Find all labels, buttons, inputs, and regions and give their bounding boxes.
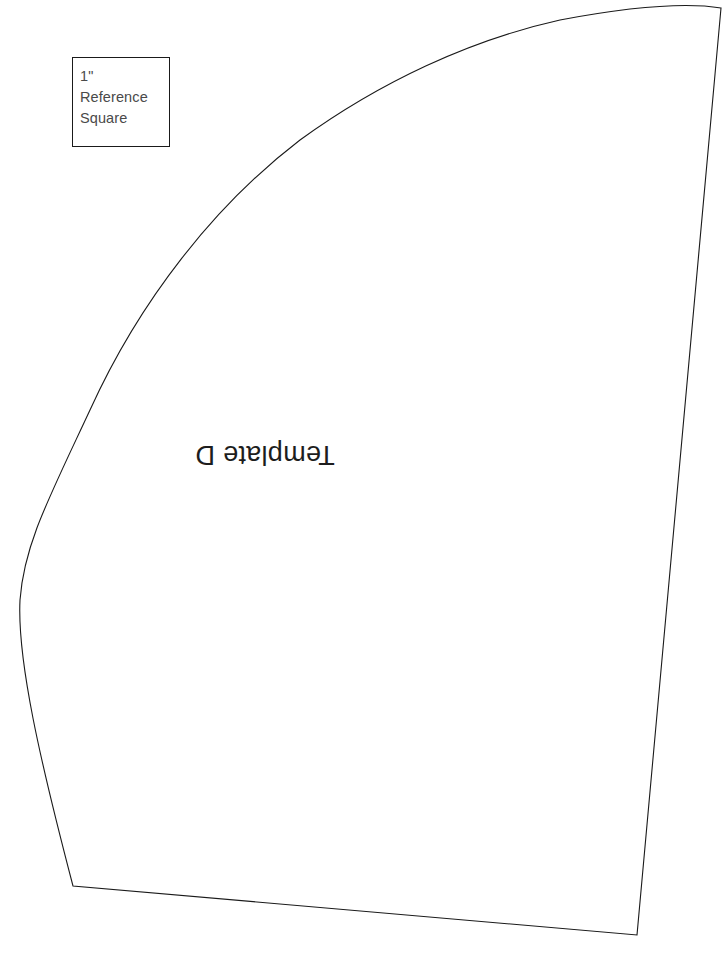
reference-square-line-1: 1" xyxy=(80,66,172,87)
reference-square-line-3: Square xyxy=(80,108,172,129)
pattern-page: 1" Reference Square Template D xyxy=(0,0,727,966)
template-name-label: Template D xyxy=(0,438,530,472)
reference-square-label: 1" Reference Square xyxy=(80,66,172,129)
reference-square-line-2: Reference xyxy=(80,87,172,108)
